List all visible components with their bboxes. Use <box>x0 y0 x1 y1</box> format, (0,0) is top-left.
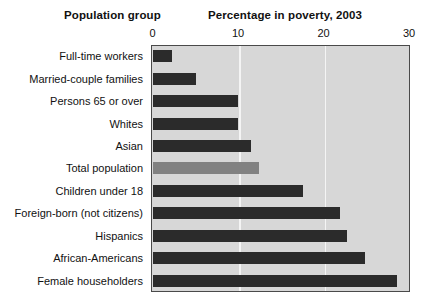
category-label: Married-couple families <box>0 73 143 85</box>
bar-row: African-Americans <box>0 247 440 269</box>
bar-row: Asian <box>0 135 440 157</box>
population-group-header: Population group <box>64 9 161 21</box>
bar <box>153 275 398 287</box>
chart-headers: Population group Percentage in poverty, … <box>0 9 440 27</box>
category-label: Asian <box>0 140 143 152</box>
x-tick-label-10: 10 <box>232 27 244 39</box>
bar <box>153 95 239 107</box>
bar-row: Whites <box>0 112 440 134</box>
bar <box>153 185 303 197</box>
x-tick-label-20: 20 <box>317 27 329 39</box>
bar-row: Full-time workers <box>0 45 440 67</box>
bar <box>153 140 251 152</box>
bar <box>153 230 347 242</box>
bar <box>153 207 340 219</box>
category-label: Female householders <box>0 275 143 287</box>
bar-row: Total population <box>0 157 440 179</box>
x-axis-tick-labels: 0102030 <box>0 27 440 43</box>
category-label: Total population <box>0 162 143 174</box>
bar <box>153 73 197 85</box>
bar-row: Foreign-born (not citizens) <box>0 202 440 224</box>
bar-row: Hispanics <box>0 225 440 247</box>
bar <box>153 162 260 174</box>
x-tick-label-0: 0 <box>149 27 155 39</box>
bar-row: Married-couple families <box>0 67 440 89</box>
category-label: Foreign-born (not citizens) <box>0 207 143 219</box>
category-label: Persons 65 or over <box>0 95 143 107</box>
category-label: African-Americans <box>0 252 143 264</box>
bar-row: Persons 65 or over <box>0 90 440 112</box>
category-label: Children under 18 <box>0 185 143 197</box>
category-label: Hispanics <box>0 230 143 242</box>
category-label: Full-time workers <box>0 50 143 62</box>
x-tick-label-30: 30 <box>403 27 415 39</box>
bar-row: Children under 18 <box>0 180 440 202</box>
bar <box>153 118 239 130</box>
chart-title: Percentage in poverty, 2003 <box>208 9 362 21</box>
bar-row: Female householders <box>0 270 440 292</box>
bar <box>153 252 366 264</box>
category-label: Whites <box>0 118 143 130</box>
bar-rows: Full-time workersMarried-couple families… <box>0 45 440 292</box>
bar <box>153 50 173 62</box>
